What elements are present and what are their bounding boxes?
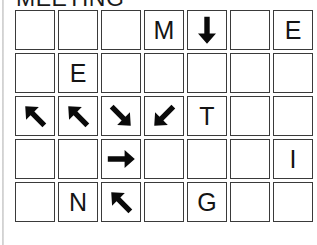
grid-cell-arrow[interactable] <box>101 96 141 136</box>
arrow-up-right-icon <box>63 101 93 131</box>
grid-cell-empty[interactable] <box>273 53 313 93</box>
grid-cell-arrow[interactable] <box>15 96 55 136</box>
grid-cell-empty[interactable] <box>273 182 313 222</box>
arrow-down-left-icon <box>149 101 179 131</box>
grid-cell-empty[interactable] <box>144 53 184 93</box>
grid-cell-letter[interactable]: T <box>187 96 227 136</box>
grid-cell-empty[interactable] <box>230 53 270 93</box>
arrow-up-right-icon <box>20 101 50 131</box>
grid-cell-empty[interactable] <box>230 182 270 222</box>
grid-cell-empty[interactable] <box>15 53 55 93</box>
grid-cell-empty[interactable] <box>187 53 227 93</box>
cell-letter: E <box>70 61 87 86</box>
cell-letter: M <box>154 18 175 43</box>
page-title: MEETING <box>16 0 124 10</box>
cell-letter: G <box>197 190 216 215</box>
grid-cell-empty[interactable] <box>230 96 270 136</box>
grid-cell-empty[interactable] <box>144 139 184 179</box>
grid-cell-empty[interactable] <box>15 139 55 179</box>
grid-cell-letter[interactable]: N <box>58 182 98 222</box>
grid-cell-arrow[interactable] <box>101 182 141 222</box>
grid-cell-empty[interactable] <box>15 10 55 50</box>
grid-cell-empty[interactable] <box>58 10 98 50</box>
arrow-down-right-icon <box>106 101 136 131</box>
grid-cell-arrow[interactable] <box>144 96 184 136</box>
grid-cell-letter[interactable]: M <box>144 10 184 50</box>
arrow-right-icon <box>106 144 136 174</box>
grid-cell-arrow[interactable] <box>58 96 98 136</box>
grid-cell-letter[interactable]: E <box>273 10 313 50</box>
grid-cell-empty[interactable] <box>101 53 141 93</box>
grid-cell-arrow[interactable] <box>101 139 141 179</box>
grid-cell-letter[interactable]: G <box>187 182 227 222</box>
grid-cell-letter[interactable]: I <box>273 139 313 179</box>
grid-cell-letter[interactable]: E <box>58 53 98 93</box>
grid-cell-empty[interactable] <box>230 139 270 179</box>
page-edge-artifact <box>2 0 4 245</box>
grid-cell-empty[interactable] <box>187 139 227 179</box>
grid-cell-empty[interactable] <box>273 96 313 136</box>
cell-letter: T <box>199 104 214 129</box>
grid-cell-empty[interactable] <box>230 10 270 50</box>
cell-letter: I <box>290 147 297 172</box>
grid-cell-arrow[interactable] <box>187 10 227 50</box>
arrow-up-right-icon <box>106 187 136 217</box>
grid-cell-empty[interactable] <box>101 10 141 50</box>
grid-cell-empty[interactable] <box>58 139 98 179</box>
cell-letter: E <box>285 18 302 43</box>
grid-cell-empty[interactable] <box>15 182 55 222</box>
grid-cell-empty[interactable] <box>144 182 184 222</box>
arrow-down-icon <box>192 15 222 45</box>
cell-letter: N <box>69 190 87 215</box>
puzzle-grid: MEETING <box>15 10 315 224</box>
